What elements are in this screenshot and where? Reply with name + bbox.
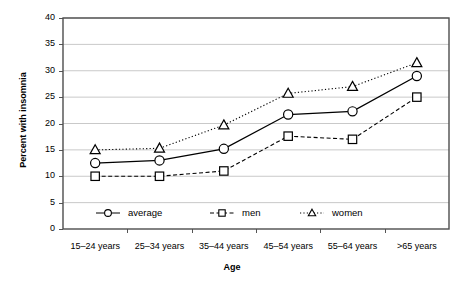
data-point-men: [220, 167, 228, 175]
data-point-average: [348, 107, 357, 116]
data-point-men: [348, 135, 356, 143]
legend-marker-average: [105, 210, 112, 217]
data-point-women: [348, 81, 358, 90]
data-point-men: [155, 172, 163, 180]
data-point-average: [412, 71, 421, 80]
data-point-women: [412, 58, 422, 67]
data-point-women: [155, 143, 165, 152]
data-point-average: [155, 156, 164, 165]
insomnia-by-age-line-chart: Percent with insomnia Age 05101520253035…: [0, 0, 464, 281]
data-point-average: [284, 110, 293, 119]
data-point-men: [91, 172, 99, 180]
data-point-women: [90, 145, 100, 154]
data-point-men: [284, 132, 292, 140]
legend-marker-men: [219, 210, 225, 216]
legend-label-average: average: [128, 208, 162, 218]
data-point-women: [219, 120, 229, 129]
data-point-average: [219, 144, 228, 153]
legend-label-men: men: [242, 208, 260, 218]
legend-label-women: women: [332, 208, 363, 218]
plot-area: [0, 0, 464, 281]
data-point-men: [413, 93, 421, 101]
data-point-average: [91, 158, 100, 167]
series-line-men: [95, 97, 417, 176]
series-line-women: [95, 63, 417, 150]
